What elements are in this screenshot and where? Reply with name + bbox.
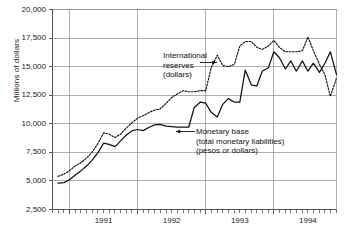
annotation-line: reserves: [163, 61, 207, 71]
annotation-line: (pesos or dollars): [196, 146, 284, 156]
y-axis-tick-label: 10,000: [4, 119, 46, 128]
international-reserves-annotation: International reserves (dollars): [163, 51, 207, 80]
x-axis-tick-label: 1994: [283, 216, 333, 225]
chart-container: Millions of dollars 20,00017,50015,00012…: [0, 0, 353, 240]
annotation-line: International: [163, 51, 207, 61]
x-axis-tick-label: 1993: [215, 216, 265, 225]
annotation-line: Monetary base: [196, 127, 284, 137]
gridlines: [53, 10, 337, 210]
annotation-line: (dollars): [163, 70, 207, 80]
y-axis-tick-label: 12,500: [4, 90, 46, 99]
chart-plot: [0, 0, 353, 240]
x-axis-tick-label: 1991: [79, 216, 129, 225]
y-axis-tick-label: 20,000: [4, 5, 46, 14]
annotation-line: (total monetary liabilities): [196, 137, 284, 147]
x-axis-ticks: [53, 210, 337, 215]
plot-frame: [53, 10, 337, 211]
y-axis-ticks: [49, 10, 53, 210]
y-axis-tick-label: 15,000: [4, 62, 46, 71]
x-axis-tick-label: 1992: [147, 216, 197, 225]
y-axis-tick-label: 2,500: [4, 205, 46, 214]
y-axis-tick-label: 5,000: [4, 176, 46, 185]
monetary-base-annotation: Monetary base (total monetary liabilitie…: [196, 127, 284, 156]
y-axis-tick-label: 17,500: [4, 33, 46, 42]
y-axis-tick-label: 7,500: [4, 147, 46, 156]
